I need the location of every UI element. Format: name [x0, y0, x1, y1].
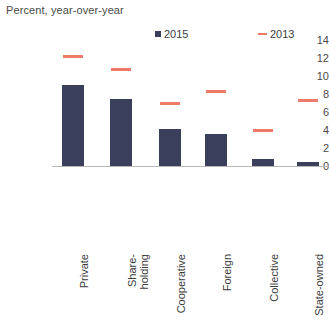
- x-axis-tick-label: Foreign: [222, 254, 234, 320]
- y-axis-tick-label: 4: [283, 124, 329, 136]
- y-axis-tick-label: 2: [283, 142, 329, 154]
- y-axis-tick-label: 6: [283, 106, 329, 118]
- x-axis-labels: PrivateShare- holdingCooperativeForeignC…: [0, 170, 329, 257]
- x-axis-tick-label: Share- holding: [127, 254, 150, 320]
- x-axis-tick-label: Cooperative: [176, 254, 188, 320]
- x-axis-baseline: [52, 166, 329, 167]
- x-axis-tick-label: Collective: [269, 254, 281, 320]
- bar: [205, 134, 227, 166]
- dash-marker: [253, 129, 273, 132]
- dash-marker: [63, 55, 83, 58]
- x-axis-tick-label: State-owned: [314, 254, 326, 320]
- y-axis-tick-label: 14: [283, 34, 329, 46]
- dash-marker: [111, 68, 131, 71]
- bar: [252, 159, 274, 166]
- y-axis-tick-label: 12: [283, 52, 329, 64]
- y-axis-tick-label: 10: [283, 70, 329, 82]
- bar: [159, 129, 181, 166]
- dash-marker: [160, 102, 180, 105]
- dash-marker: [206, 90, 226, 93]
- dash-marker: [298, 99, 318, 102]
- x-axis-tick-label: Private: [79, 254, 91, 320]
- bar: [62, 85, 84, 166]
- bar: [110, 99, 132, 166]
- plot-area: 14121086420: [0, 0, 329, 172]
